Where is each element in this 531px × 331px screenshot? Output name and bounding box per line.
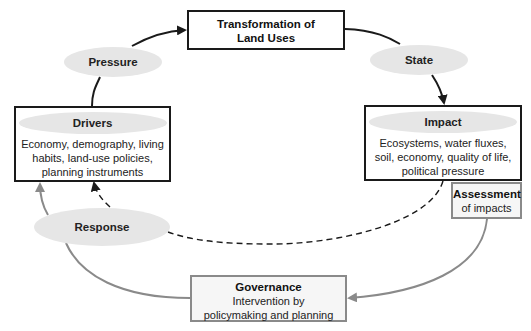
state-label: State	[405, 54, 433, 66]
state-ellipse: State	[370, 45, 468, 75]
arrow-response-to-drivers	[40, 184, 48, 215]
drivers-body-line2: habits, land-use policies,	[16, 151, 169, 165]
drivers-header-ellipse: Drivers	[19, 112, 167, 134]
impact-header-ellipse: Impact	[369, 111, 517, 133]
impact-box: Impact Ecosystems, water fluxes, soil, e…	[364, 105, 522, 181]
arrow-state-to-impact	[432, 75, 444, 103]
arrow-governance-to-response	[66, 243, 190, 298]
governance-box: Governance Intervention by policymaking …	[190, 275, 347, 322]
governance-title: Governance	[192, 280, 345, 294]
assessment-body: of impacts	[453, 201, 520, 215]
assessment-title: Assessment	[453, 187, 520, 201]
impact-body-line2: soil, economy, quality of life,	[366, 150, 520, 164]
pressure-ellipse: Pressure	[64, 47, 162, 77]
drivers-body-line3: planning instruments	[16, 165, 169, 179]
drivers-title: Drivers	[73, 117, 113, 129]
arrow-drivers-to-pressure	[92, 77, 100, 106]
transformation-title-line1: Transformation of	[189, 17, 343, 31]
impact-body-line3: political pressure	[366, 164, 520, 178]
dpsir-diagram: Transformation of Land Uses Pressure Sta…	[0, 0, 531, 331]
pressure-label: Pressure	[88, 56, 137, 68]
response-ellipse: Response	[34, 208, 170, 246]
impact-title: Impact	[424, 116, 461, 128]
drivers-box: Drivers Economy, demography, living habi…	[14, 106, 171, 182]
arrow-transformation-to-state	[345, 29, 400, 44]
response-label: Response	[75, 221, 130, 233]
arrow-pressure-to-transformation	[132, 30, 185, 46]
drivers-body-line1: Economy, demography, living	[16, 137, 169, 151]
arrow-impact-dashed-to-response	[168, 181, 443, 244]
transformation-box: Transformation of Land Uses	[187, 10, 345, 50]
arrow-response-dashed-to-drivers	[94, 183, 110, 207]
transformation-title-line2: Land Uses	[189, 31, 343, 45]
impact-body-line1: Ecosystems, water fluxes,	[366, 136, 520, 150]
governance-body-line1: Intervention by	[192, 294, 345, 308]
governance-body-line2: policymaking and planning	[192, 308, 345, 322]
assessment-box: Assessment of impacts	[451, 182, 522, 219]
